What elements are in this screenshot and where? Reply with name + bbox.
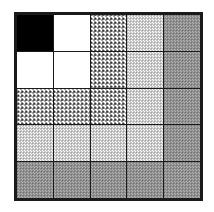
grid-cell [53,15,90,52]
grid-cell [164,51,201,88]
grid-cell [164,125,201,162]
grid-cell [53,88,90,125]
grid-cell [53,162,90,199]
grid-row [17,125,201,162]
grid-cell [53,51,90,88]
grid-row [17,15,201,52]
grid-cell [127,15,164,52]
grid-row [17,51,201,88]
grid-cell [127,51,164,88]
grid-cell [90,51,127,88]
grid-cell [90,88,127,125]
grid-cell [127,88,164,125]
grid-cell [90,15,127,52]
grid-cell [127,125,164,162]
grid-matrix [14,12,203,201]
grid-cell [17,125,54,162]
grid-cell [127,162,164,199]
grid-body [17,15,201,199]
grid-cell [17,162,54,199]
grid-table [16,14,201,199]
grid-row [17,88,201,125]
grid-cell [17,15,54,52]
grid-cell [90,125,127,162]
grid-cell [164,162,201,199]
grid-cell [164,15,201,52]
grid-cell [90,162,127,199]
grid-row [17,162,201,199]
grid-cell [53,125,90,162]
grid-cell [17,88,54,125]
grid-cell [17,51,54,88]
grid-cell [164,88,201,125]
